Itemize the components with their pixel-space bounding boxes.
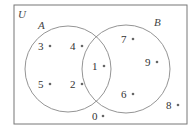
element-4: 4 xyxy=(70,40,83,52)
element-3: 3 xyxy=(38,40,51,52)
set-a-label: A xyxy=(37,19,45,31)
element-5: 5 xyxy=(38,78,51,90)
set-b-label: B xyxy=(154,16,161,28)
element-9: 9 xyxy=(145,56,158,68)
svg-text:1: 1 xyxy=(92,60,98,72)
set-a-circle xyxy=(25,26,111,112)
universe-label: U xyxy=(18,8,27,20)
element-7: 7 xyxy=(121,33,134,45)
element-6: 6 xyxy=(121,88,134,100)
venn-diagram: U A B 3 4 5 2 1 7 9 6 8 0 xyxy=(0,0,193,129)
svg-text:8: 8 xyxy=(166,99,172,111)
element-1: 1 xyxy=(92,60,105,72)
svg-text:0: 0 xyxy=(92,110,98,122)
svg-text:4: 4 xyxy=(70,40,76,52)
element-2: 2 xyxy=(70,78,83,90)
element-8: 8 xyxy=(166,99,179,111)
svg-text:9: 9 xyxy=(145,56,151,68)
svg-text:2: 2 xyxy=(70,78,76,90)
svg-text:5: 5 xyxy=(38,78,44,90)
svg-text:6: 6 xyxy=(121,88,127,100)
svg-text:7: 7 xyxy=(121,33,127,45)
element-0: 0 xyxy=(92,110,104,122)
svg-text:3: 3 xyxy=(38,40,44,52)
